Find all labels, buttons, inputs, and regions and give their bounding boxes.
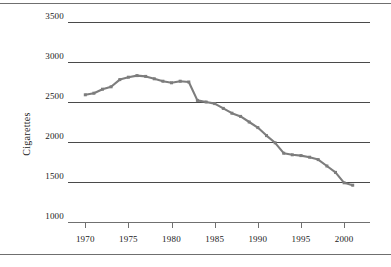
y-axis-title: Cigarettes <box>21 112 32 156</box>
x-tick-label-1995: 1995 <box>292 235 311 244</box>
x-tick-label-1990: 1990 <box>248 235 267 244</box>
x-tick-1985 <box>215 222 216 228</box>
data-point-1980 <box>170 81 173 84</box>
data-point-1978 <box>153 77 156 80</box>
data-point-1998 <box>325 165 328 168</box>
data-point-1990 <box>256 126 259 129</box>
x-tick-1995 <box>301 222 302 228</box>
x-tick-1970 <box>85 222 86 228</box>
data-point-1997 <box>317 158 320 161</box>
data-point-1992 <box>274 141 277 144</box>
data-point-1975 <box>127 76 130 79</box>
data-point-1982 <box>187 81 190 84</box>
y-axis-title-container: Cigarettes <box>18 0 34 267</box>
x-tick-2000 <box>344 222 345 228</box>
data-point-1995 <box>300 154 303 157</box>
data-point-1987 <box>230 112 233 115</box>
y-tick-label-3000: 3000 <box>45 52 64 61</box>
data-point-1994 <box>291 153 294 156</box>
data-point-1985 <box>213 102 216 105</box>
data-point-2001 <box>351 184 354 187</box>
x-axis-line <box>68 222 370 223</box>
data-point-1983 <box>196 99 199 102</box>
data-point-1973 <box>110 85 113 88</box>
y-tick-label-2000: 2000 <box>45 132 64 141</box>
y-tick-label-3500: 3500 <box>45 12 64 21</box>
data-point-1988 <box>239 115 242 118</box>
data-point-1999 <box>334 171 337 174</box>
x-tick-label-1985: 1985 <box>205 235 224 244</box>
data-point-1970 <box>84 93 87 96</box>
data-point-1972 <box>101 88 104 91</box>
data-point-1981 <box>179 80 182 83</box>
x-tick-label-1980: 1980 <box>162 235 181 244</box>
data-point-1993 <box>282 152 285 155</box>
x-tick-1990 <box>258 222 259 228</box>
top-border-rule <box>0 3 391 4</box>
data-point-1989 <box>248 121 251 124</box>
x-tick-label-1975: 1975 <box>119 235 138 244</box>
y-tick-label-2500: 2500 <box>45 92 64 101</box>
y-tick-label-1500: 1500 <box>45 172 64 181</box>
data-point-1991 <box>265 134 268 137</box>
y-tick-label-1000: 1000 <box>45 212 64 221</box>
x-tick-1980 <box>172 222 173 228</box>
data-point-1996 <box>308 156 311 159</box>
data-point-1986 <box>222 107 225 110</box>
series-layer <box>68 22 370 222</box>
data-point-1976 <box>136 74 139 77</box>
data-point-1977 <box>144 75 147 78</box>
chart-figure: Cigarettes 100015002000250030003500 1970… <box>0 0 391 267</box>
x-tick-label-2000: 2000 <box>335 235 354 244</box>
plot-area: 1970197519801985199019952000 <box>68 22 370 222</box>
data-point-1971 <box>92 92 95 95</box>
data-point-2000 <box>343 181 346 184</box>
data-point-1984 <box>205 101 208 104</box>
data-point-1974 <box>118 78 121 81</box>
bottom-border-rule <box>0 254 391 255</box>
series-line-cigarettes <box>85 76 352 186</box>
series-markers <box>84 74 354 187</box>
data-point-1979 <box>161 80 164 83</box>
x-tick-label-1970: 1970 <box>76 235 95 244</box>
x-tick-1975 <box>128 222 129 228</box>
